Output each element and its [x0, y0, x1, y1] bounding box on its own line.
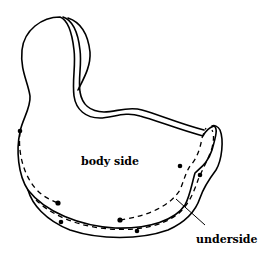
body-side-outline — [18, 17, 216, 228]
marker-dot — [178, 164, 183, 169]
marker-dot — [55, 200, 60, 205]
body-side-label: body side — [81, 155, 139, 168]
underside-stitch-line — [36, 130, 214, 229]
bib-pattern-diagram — [0, 0, 261, 257]
underside-label: underside — [196, 233, 258, 246]
marker-dot — [198, 173, 203, 178]
body-side-stitch-line-right — [120, 128, 206, 220]
marker-dot — [117, 217, 122, 222]
marker-dot — [59, 220, 64, 225]
body-side-stitch-line — [20, 132, 58, 203]
marker-dot — [135, 229, 140, 234]
marker-dot — [18, 129, 23, 134]
